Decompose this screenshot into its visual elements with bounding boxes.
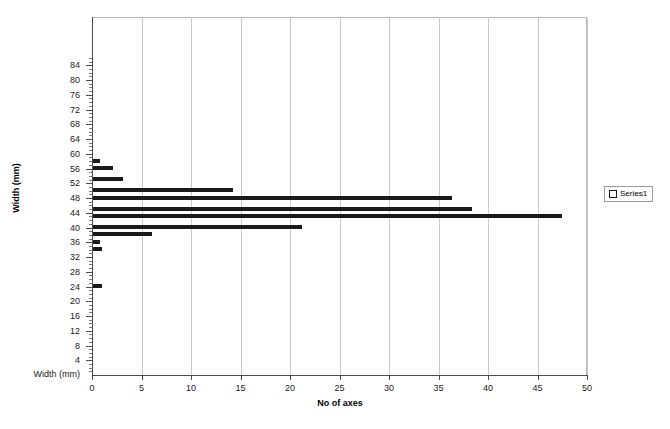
y-axis-tick-minor [89, 117, 92, 118]
y-axis-tick-minor [89, 231, 92, 232]
y-axis-tick-minor [89, 342, 92, 343]
y-axis-tick-minor [89, 323, 92, 324]
x-axis-label: 0 [72, 383, 112, 393]
y-axis-tick-major [86, 360, 92, 361]
y-axis-tick-major [86, 124, 92, 125]
y-axis-label: 64 [0, 135, 80, 144]
y-axis-tick-minor [89, 165, 92, 166]
x-axis-tick [587, 375, 588, 380]
y-axis-tick-minor [89, 98, 92, 99]
x-axis-label: 10 [171, 383, 211, 393]
bar [92, 247, 102, 251]
y-axis-tick-minor [89, 371, 92, 372]
x-axis-label: 35 [419, 383, 459, 393]
y-axis-tick-major [86, 228, 92, 229]
bar [92, 166, 113, 170]
x-gridline [488, 18, 489, 375]
y-axis-tick-minor [89, 246, 92, 247]
y-axis-tick-minor [89, 62, 92, 63]
y-axis-tick-minor [89, 338, 92, 339]
x-axis-tick [241, 375, 242, 380]
y-axis-tick-minor [89, 283, 92, 284]
y-axis-tick-minor [89, 102, 92, 103]
y-axis-tick-major [86, 183, 92, 184]
y-axis-tick-major [86, 316, 92, 317]
y-axis-label: 60 [0, 150, 80, 159]
y-axis-tick-minor [89, 279, 92, 280]
y-axis-tick-minor [89, 294, 92, 295]
y-axis-tick-minor [89, 150, 92, 151]
y-axis-tick-minor [89, 157, 92, 158]
x-axis-label: 5 [122, 383, 162, 393]
x-axis-tick [439, 375, 440, 380]
y-axis-label: 28 [0, 268, 80, 277]
plot-area [92, 17, 587, 375]
y-axis-tick-major [86, 346, 92, 347]
y-axis-label: 20 [0, 297, 80, 306]
y-axis-tick-minor [89, 327, 92, 328]
y-axis-tick-major [86, 242, 92, 243]
y-axis-tick-minor [89, 368, 92, 369]
y-axis-label: 32 [0, 253, 80, 262]
y-axis-tick-minor [89, 73, 92, 74]
y-axis-tick-minor [89, 349, 92, 350]
x-axis-tick [340, 375, 341, 380]
y-axis-tick-minor [89, 191, 92, 192]
y-axis-tick-major [86, 272, 92, 273]
x-axis-tick [92, 375, 93, 380]
bar [92, 284, 102, 288]
y-axis-label: 80 [0, 76, 80, 85]
bar [92, 188, 233, 192]
y-axis-label: 48 [0, 194, 80, 203]
y-axis-tick-minor [89, 268, 92, 269]
y-axis-tick-minor [89, 84, 92, 85]
y-axis-label: 12 [0, 327, 80, 336]
y-axis-tick-major [86, 154, 92, 155]
y-axis-tick-minor [89, 76, 92, 77]
y-axis-tick-minor [89, 121, 92, 122]
y-axis-tick-major [86, 257, 92, 258]
x-axis-label: 30 [369, 383, 409, 393]
x-axis-tick [488, 375, 489, 380]
x-axis-label: 50 [567, 383, 607, 393]
y-axis-tick-major [86, 198, 92, 199]
y-axis-tick-minor [89, 261, 92, 262]
y-axis-line [92, 17, 93, 375]
bar [92, 214, 562, 218]
x-axis-title: No of axes [92, 398, 588, 408]
chart-legend[interactable]: Series1 [604, 186, 653, 202]
y-axis-label: 84 [0, 61, 80, 70]
y-axis-tick-minor [89, 194, 92, 195]
y-axis-tick-minor [89, 253, 92, 254]
y-axis-label: 24 [0, 283, 80, 292]
x-gridline [538, 18, 539, 375]
y-axis-tick-minor [89, 298, 92, 299]
y-axis-label: 76 [0, 91, 80, 100]
y-axis-tick-minor [89, 205, 92, 206]
y-axis-tick-minor [89, 176, 92, 177]
y-axis-tick-minor [89, 309, 92, 310]
x-axis-label: 25 [320, 383, 360, 393]
y-axis-label: 36 [0, 238, 80, 247]
y-axis-label: 56 [0, 165, 80, 174]
x-axis-label: 20 [270, 383, 310, 393]
x-axis-label: 40 [468, 383, 508, 393]
y-axis-tick-minor [89, 135, 92, 136]
y-axis-tick-minor [89, 305, 92, 306]
y-axis-tick-major [86, 287, 92, 288]
y-axis-tick-minor [89, 357, 92, 358]
y-axis-label: 68 [0, 120, 80, 129]
y-axis-tick-major [86, 301, 92, 302]
y-axis-tick-major [86, 95, 92, 96]
bar [92, 225, 302, 229]
bar-chart: Width (mm) No of axes Series1 0510152025… [0, 0, 670, 429]
y-axis-tick-minor [89, 312, 92, 313]
y-axis-tick-major [86, 331, 92, 332]
bar [92, 232, 152, 236]
y-axis-tick-minor [89, 180, 92, 181]
bar [92, 177, 123, 181]
legend-label: Series1 [620, 190, 647, 198]
x-axis-tick [389, 375, 390, 380]
y-axis-tick-minor [89, 235, 92, 236]
y-axis-tick-minor [89, 239, 92, 240]
